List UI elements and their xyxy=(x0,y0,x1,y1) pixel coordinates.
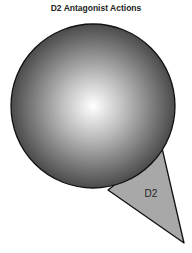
d2-label: D2 xyxy=(145,188,158,199)
drug-sphere xyxy=(11,24,175,188)
diagram-canvas: D2 xyxy=(0,0,192,253)
